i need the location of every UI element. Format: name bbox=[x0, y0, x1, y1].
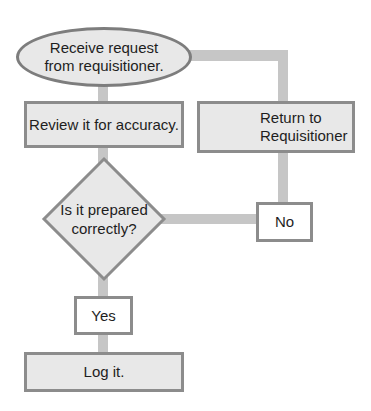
log-node-box: Log it. bbox=[24, 352, 184, 392]
decision-node-label-line2: correctly? bbox=[71, 219, 136, 238]
flowchart-canvas: Receive request from requisitioner. Revi… bbox=[0, 0, 371, 411]
log-node-label: Log it. bbox=[84, 363, 125, 381]
decision-node-label-line1: Is it prepared bbox=[60, 200, 148, 219]
no-label-box: No bbox=[256, 202, 313, 242]
yes-label-box: Yes bbox=[74, 296, 133, 335]
decision-node-label: Is it prepared correctly? bbox=[44, 159, 164, 279]
no-label-text: No bbox=[275, 213, 294, 231]
yes-label-text: Yes bbox=[91, 307, 115, 325]
